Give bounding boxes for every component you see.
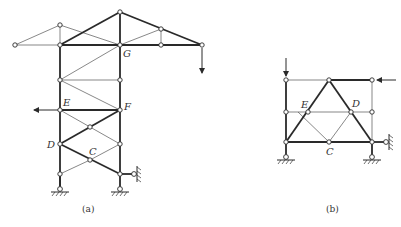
pin-support-right-b: [363, 155, 381, 164]
caption-b: (b): [326, 204, 339, 214]
truss-b-thick-members: [286, 80, 385, 158]
truss-a-thick-members: [60, 12, 202, 190]
truss-b-thin-members: [286, 80, 372, 142]
node-label-C: C: [89, 146, 97, 157]
roller-support-side-b: [384, 134, 393, 150]
node-label-D: D: [46, 139, 55, 150]
truss-a-thin-members: [15, 25, 161, 174]
caption-a: (a): [82, 204, 94, 214]
truss-a: G E F D C (a): [13, 10, 204, 214]
node-label-E-b: E: [300, 99, 309, 110]
truss-b: E D C (b): [277, 58, 396, 214]
truss-diagrams: G E F D C (a): [0, 0, 401, 227]
node-label-C-b: C: [326, 146, 334, 157]
roller-support-side-a: [132, 166, 141, 182]
pin-support-left-a: [51, 174, 69, 196]
pin-support-right-a: [111, 187, 129, 196]
node-label-D-b: D: [351, 98, 360, 109]
pin-support-left-b: [277, 155, 295, 164]
node-label-E: E: [62, 97, 71, 108]
node-label-F: F: [123, 101, 132, 112]
truss-b-nodes: [284, 78, 374, 144]
node-label-G: G: [123, 48, 131, 59]
